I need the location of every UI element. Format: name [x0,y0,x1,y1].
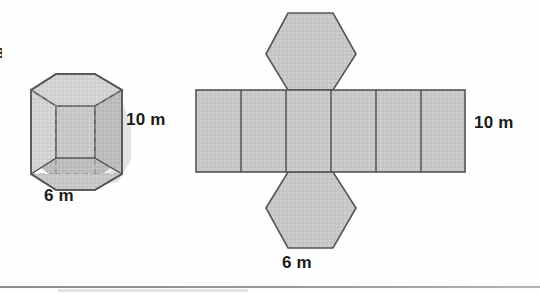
net-height-label: 10 m [474,113,514,133]
net-group [196,13,465,248]
prism-base-edge-label: 6 m [44,186,74,206]
page-rule-accent [58,289,248,292]
page-bottom-rule [0,286,540,288]
hexagonal-prism-group [31,74,131,190]
net-base-edge-label: 6 m [282,253,312,273]
geometry-figure-canvas [0,0,540,294]
net-hexagon-top [266,13,356,90]
prism-height-label: 10 m [126,110,166,130]
net-hexagon-bottom [266,172,356,248]
